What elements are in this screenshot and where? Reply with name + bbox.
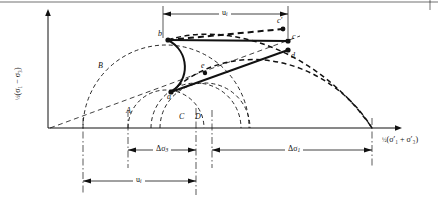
effective-stress-path-ab [168,40,185,92]
y-axis-expression: (σ₁ − σ₃) [13,67,22,95]
dim-ds3-arrow-right [188,148,196,153]
dim-label-delta-sigma1: Δσ1 [285,145,303,154]
point-marker-cprime [281,27,286,32]
point-label-b: b [158,30,162,38]
dim-ds3-arrow-left [128,148,136,153]
point-marker-d [285,47,290,52]
total-stress-path-bc [168,40,288,41]
dim-bottom-arrow-right [188,179,196,184]
dim-label-delta-sigma3: Δσ3 [153,145,171,154]
circle-label-C: C [179,113,184,121]
point-label-cprime: c′ [277,17,282,25]
kf-line [50,36,300,128]
dim-top-arrow-left [163,12,171,17]
dim-ds1-arrow-right [364,148,372,153]
mohr-circles-group [83,45,250,128]
mohr-circle-B [83,45,249,128]
dim-ds3-subscript: 3 [165,147,168,153]
dim-bottom-subscript: i [140,178,142,184]
mohr-circle-figure: ½(σ₁ − σ₃) ½(σ′₁ + σ′₃) a b c c′ d e B A… [0,0,438,203]
dim-label-top-ui: ui [219,9,231,18]
y-axis-fraction: ½ [15,96,21,101]
diagram-canvas [0,0,438,203]
point-label-c: c [292,33,296,41]
circle-label-D: D [195,113,201,121]
x-axis-arrowhead [395,125,402,131]
x-axis-label: ½(σ′₁ + σ′₃) [382,136,418,144]
dim-label-bottom-ui: ui [133,176,145,185]
point-marker-b [165,37,170,42]
x-axis-expression: (σ′₁ + σ′₃) [387,135,419,144]
dim-top-subscript: i [226,11,228,17]
stress-path-aed [171,50,288,92]
point-marker-e [203,71,207,75]
dim-ds1-subscript: 1 [297,147,300,153]
circle-label-B: B [98,62,103,70]
y-axis-label: ½(σ₁ − σ₃) [14,67,22,100]
point-label-a: a [167,93,171,101]
point-label-e: e [201,62,205,70]
dim-ds1-arrow-left [212,148,220,153]
point-marker-c [285,38,290,43]
point-label-d: d [291,52,295,60]
y-axis-arrowhead [45,9,51,16]
dim-bottom-arrow-left [83,179,91,184]
stress-path-bcprime [168,29,283,40]
mohr-circle-A [128,90,204,128]
centerlines-group [83,108,372,195]
circle-label-A: A [126,107,131,115]
